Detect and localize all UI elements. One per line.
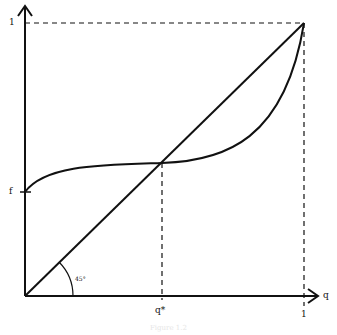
- x-tick-qstar-label: q*: [155, 306, 165, 315]
- y-tick-f-label: f: [9, 187, 12, 196]
- x-axis-label: q: [323, 291, 329, 300]
- x-tick-1-label: 1: [301, 310, 307, 319]
- y-tick-1-label: 1: [9, 18, 15, 27]
- s-curve: [25, 23, 304, 192]
- angle-label: 45°: [75, 276, 86, 282]
- diagram-canvas: [0, 0, 337, 335]
- figure-caption: Figure 1.2: [150, 324, 187, 332]
- 45-degree-line: [25, 23, 304, 296]
- angle-arc: [59, 262, 73, 296]
